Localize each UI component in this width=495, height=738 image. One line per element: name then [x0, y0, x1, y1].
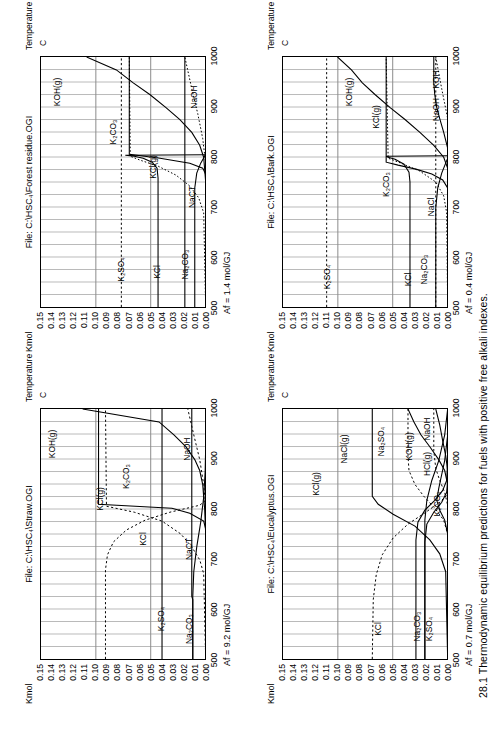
- annotation-label: NaCT: [184, 538, 194, 560]
- x-tick-label: 700: [209, 200, 219, 214]
- y-tick-label: 0.07: [124, 312, 134, 338]
- figure-caption: 28.1 Thermodynamic equilibrium predictio…: [477, 293, 489, 698]
- y-tick-label: 0.03: [410, 312, 420, 338]
- x-tick-label: 900: [451, 451, 461, 465]
- y-tick-label: 0.07: [366, 664, 376, 690]
- annotation-label: KCl: [152, 265, 162, 279]
- y-tick-label: 0.13: [299, 312, 309, 338]
- annotation-label: KCl: [138, 532, 148, 546]
- y-tick-label: 0.00: [201, 664, 211, 690]
- annotation-label: NaCl(g): [339, 435, 349, 464]
- y-tick-label: 0.13: [57, 312, 67, 338]
- free-alkali-index-bark: Af = 0.4 mol/GJ: [464, 252, 474, 314]
- y-tick-label: 0.02: [421, 664, 431, 690]
- annotation-label: Na₂CO₃: [412, 612, 422, 642]
- y-tick-label: 0.06: [135, 664, 145, 690]
- y-tick-label: 0.15: [35, 312, 45, 338]
- annotation-label: KCl(g): [311, 472, 321, 496]
- annotation-label: K₂SO₄: [322, 265, 332, 289]
- y-tick-label: 0.00: [443, 312, 453, 338]
- x-axis-unit-forest: C: [38, 40, 48, 46]
- annotation-label: KCl(g): [371, 105, 381, 129]
- x-tick-label: 900: [209, 451, 219, 465]
- figure-page: Kmol File: C:\HSC₄\Straw.OGI: [0, 0, 495, 738]
- x-axis-title-forest: Temperature: [24, 2, 34, 50]
- annotation-label: K₂CO₃: [121, 464, 131, 489]
- y-axis-unit-label-forest: Kmol: [24, 331, 34, 352]
- x-tick-label: 800: [451, 502, 461, 516]
- y-axis-unit-label-bark: Kmol: [266, 331, 276, 352]
- x-tick-label: 700: [451, 552, 461, 566]
- annotation-label: K₂SO₄: [116, 257, 126, 281]
- y-tick-label: 0.08: [112, 664, 122, 690]
- y-tick-label: 0.04: [399, 664, 409, 690]
- y-tick-label: 0.15: [277, 312, 287, 338]
- y-tick-label: 0.08: [112, 312, 122, 338]
- y-tick-label: 0.05: [146, 312, 156, 338]
- annotation-label: NaOH: [189, 85, 199, 108]
- y-tick-label: 0.10: [332, 312, 342, 338]
- y-tick-label: 0.05: [388, 664, 398, 690]
- y-tick-label: 0.02: [179, 312, 189, 338]
- y-tick-label: 0.11: [321, 312, 331, 338]
- annotation-label: NaCT: [187, 186, 197, 208]
- y-tick-label: 0.04: [157, 312, 167, 338]
- annotation-label: HCl(g): [422, 452, 432, 476]
- y-tick-label: 0.15: [277, 664, 287, 690]
- y-tick-label: 0.12: [68, 312, 78, 338]
- chart-panel-eucalyptus: Kmol File: C:\HSC₄\Eucalyptus.OGI: [282, 408, 448, 660]
- y-tick-label: 0.02: [421, 312, 431, 338]
- chart-title-straw: File: C:\HSC₄\Straw.OGI: [24, 485, 34, 583]
- annotation-label: NaOH: [422, 417, 432, 440]
- y-tick-label: 0.10: [90, 664, 100, 690]
- y-tick-label: 0.14: [288, 664, 298, 690]
- x-axis-unit-eucalyptus: C: [280, 392, 290, 398]
- free-alkali-index-straw: Af = 9.2 mol/GJ: [222, 604, 232, 666]
- annotation-label: KCl(g): [148, 155, 158, 179]
- y-tick-label: 0.12: [310, 664, 320, 690]
- x-tick-label: 600: [209, 250, 219, 264]
- y-tick-label: 0.06: [135, 312, 145, 338]
- y-tick-label: 0.13: [57, 664, 67, 690]
- x-tick-label: 600: [451, 250, 461, 264]
- y-tick-label: 0.08: [354, 664, 364, 690]
- annotation-label: Na₂SO₄: [376, 427, 386, 456]
- plot-area-straw: KOH(g) KCl(g) K₂CO₃ KCl NaOH NaCT K₂SO₄ …: [40, 408, 206, 660]
- x-tick-label: 800: [451, 150, 461, 164]
- y-tick-label: 0.00: [201, 312, 211, 338]
- chart-title-forest-residue: File: C:\HSC₄\Forest residue.OGI: [24, 116, 34, 249]
- annotation-label: NaOH: [431, 98, 441, 121]
- y-tick-label: 0.11: [79, 312, 89, 338]
- annotation-label: K₂SO₄: [156, 607, 166, 631]
- y-tick-label: 0.14: [46, 664, 56, 690]
- y-tick-label: 0.06: [377, 664, 387, 690]
- annotation-label: KOH(g): [52, 78, 62, 106]
- x-tick-label: 700: [451, 200, 461, 214]
- y-tick-label: 0.01: [432, 312, 442, 338]
- x-tick-label: 1000: [209, 46, 219, 65]
- annotation-label: KOH: [431, 70, 441, 88]
- annotation-label: K₂CO₃: [432, 492, 442, 517]
- plot-area-bark: KOH(g) KCl(g) K₂CO₃ K₂SO₄ KCl Na₂CO₃ NaC…: [282, 56, 448, 308]
- y-tick-label: 0.11: [79, 664, 89, 690]
- y-tick-label: 0.01: [190, 664, 200, 690]
- y-tick-label: 0.09: [101, 664, 111, 690]
- x-axis-title-straw: Temperature: [24, 354, 34, 402]
- y-tick-label: 0.12: [310, 312, 320, 338]
- y-tick-label: 0.03: [410, 664, 420, 690]
- x-tick-label: 900: [209, 99, 219, 113]
- annotation-label: KOH(g): [344, 78, 354, 106]
- x-axis-unit-bark: C: [280, 40, 290, 46]
- x-tick-label: 700: [209, 552, 219, 566]
- annotation-label: Na₂CO₃: [419, 255, 429, 285]
- x-tick-label: 1000: [451, 46, 461, 65]
- annotation-label: Na₂CO₃: [184, 614, 194, 644]
- free-alkali-index-forest: Af = 1.4 mol/GJ: [222, 252, 232, 314]
- chart-panel-forest-residue: Kmol File: C:\HSC₄\Forest residue.OGI: [40, 56, 206, 308]
- y-tick-label: 0.01: [190, 312, 200, 338]
- y-tick-label: 0.00: [443, 664, 453, 690]
- annotation-label: NaOH: [182, 437, 192, 460]
- y-tick-label: 0.13: [299, 664, 309, 690]
- free-alkali-index-eucalyptus: Af = 0.7 mol/GJ: [464, 604, 474, 666]
- y-tick-label: 0.03: [168, 664, 178, 690]
